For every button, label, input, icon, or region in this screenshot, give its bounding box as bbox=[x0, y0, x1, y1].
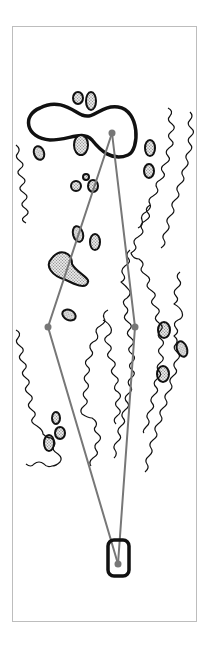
right-waypoint bbox=[132, 324, 139, 331]
tee-marker bbox=[115, 561, 122, 568]
pin-marker bbox=[109, 130, 116, 137]
left-waypoint bbox=[45, 324, 52, 331]
golf-hole-diagram bbox=[0, 0, 209, 663]
